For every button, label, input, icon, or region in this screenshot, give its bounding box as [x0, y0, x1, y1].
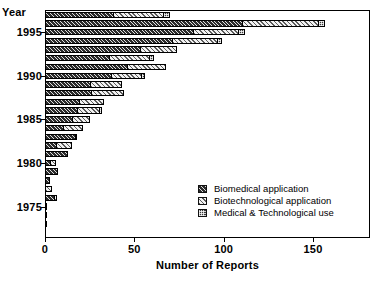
bar-row	[45, 81, 122, 87]
bar-row	[45, 73, 145, 79]
bar-row	[45, 221, 47, 227]
bar-row	[45, 64, 166, 70]
bar-segment	[99, 107, 103, 113]
bar-row	[45, 203, 47, 209]
legend-item-label: Biomedical application	[214, 184, 309, 194]
bar-segment	[45, 64, 127, 70]
bar-row	[45, 107, 102, 113]
legend-item: Medical & Technological use	[198, 207, 334, 219]
bar-row	[45, 142, 72, 148]
bar-segment	[56, 142, 72, 148]
x-axis-tick-label: 100	[214, 243, 233, 255]
bar-segment	[90, 81, 122, 87]
bar-segment	[149, 55, 154, 61]
bar-row	[45, 186, 52, 192]
bar-segment	[45, 168, 58, 174]
bar-segment	[113, 12, 163, 18]
bar-segment	[45, 212, 47, 218]
legend-swatch	[198, 197, 207, 205]
x-axis-tick	[313, 238, 314, 242]
bar-segment	[217, 38, 222, 44]
bar-row	[45, 160, 56, 166]
legend-item: Biomedical application	[198, 183, 334, 195]
x-axis-tick-label: 0	[42, 243, 48, 255]
bar-segment	[45, 99, 79, 105]
bar-segment	[45, 46, 140, 52]
bar-segment	[45, 81, 90, 87]
bar-segment	[45, 134, 75, 140]
bar-segment	[63, 125, 83, 131]
x-axis-tick	[224, 238, 225, 242]
y-axis-tick-label: 1975	[17, 201, 42, 213]
legend-item: Biotechnological application	[198, 195, 334, 207]
bar-segment	[45, 107, 77, 113]
y-axis-tick-label: 1995	[17, 26, 42, 38]
bar-segment	[45, 12, 113, 18]
bar-row	[45, 55, 154, 61]
bar-row	[45, 177, 50, 183]
y-axis-tick-label: 1990	[17, 70, 42, 82]
bar-row	[45, 195, 57, 201]
bar-segment	[111, 73, 141, 79]
x-axis-tick-label: 50	[128, 243, 141, 255]
bar-segment	[242, 20, 319, 26]
bar-row	[45, 99, 104, 105]
bar-row	[45, 38, 222, 44]
bar-segment	[238, 29, 245, 35]
bar-segment	[45, 125, 63, 131]
bar-segment	[77, 107, 98, 113]
legend-swatch	[198, 185, 207, 193]
bar-segment	[79, 99, 104, 105]
bar-row	[45, 125, 83, 131]
bar-segment	[127, 64, 166, 70]
bar-segment	[45, 29, 193, 35]
y-axis-tick-label: 1985	[17, 113, 42, 125]
x-axis-tick	[134, 238, 135, 242]
bar-row	[45, 20, 325, 26]
x-axis-tick-label: 150	[304, 243, 323, 255]
bar-segment	[163, 12, 170, 18]
bar-row	[45, 90, 124, 96]
bar-segment	[45, 55, 109, 61]
bar-segment	[45, 203, 47, 209]
bar-row	[45, 134, 77, 140]
bar-segment	[45, 38, 172, 44]
bar-row	[45, 151, 68, 157]
y-axis-tick-label: 1980	[17, 157, 42, 169]
bar-segment	[193, 29, 238, 35]
bar-segment	[45, 90, 91, 96]
bar-row	[45, 116, 90, 122]
bar-row	[45, 212, 47, 218]
bar-segment	[45, 186, 52, 192]
x-axis-title: Number of Reports	[45, 259, 370, 271]
bar-segment	[172, 38, 217, 44]
bar-segment	[45, 221, 47, 227]
bar-row	[45, 168, 58, 174]
bar-segment	[109, 55, 148, 61]
bar-segment	[75, 134, 77, 140]
bar-segment	[54, 195, 58, 201]
bar-segment	[45, 177, 50, 183]
bar-segment	[72, 116, 90, 122]
bar-segment	[45, 73, 111, 79]
bar-row	[45, 46, 177, 52]
bar-row	[45, 29, 245, 35]
bar-segment	[45, 195, 54, 201]
bar-segment	[45, 20, 242, 26]
bar-chart: Year 05010015019751980198519901995 Numbe…	[0, 0, 375, 288]
legend-item-label: Medical & Technological use	[214, 208, 334, 218]
bar-segment	[45, 116, 72, 122]
y-axis-title: Year	[2, 6, 26, 18]
legend-item-label: Biotechnological application	[214, 196, 331, 206]
bar-segment	[45, 142, 56, 148]
chart-legend: Biomedical applicationBiotechnological a…	[196, 181, 336, 221]
bar-segment	[50, 160, 55, 166]
bar-segment	[45, 151, 68, 157]
x-axis-tick	[45, 238, 46, 242]
legend-swatch	[198, 209, 207, 217]
bar-segment	[140, 46, 178, 52]
bar-segment	[141, 73, 145, 79]
bar-segment	[91, 90, 123, 96]
bar-segment	[318, 20, 325, 26]
bar-row	[45, 12, 170, 18]
